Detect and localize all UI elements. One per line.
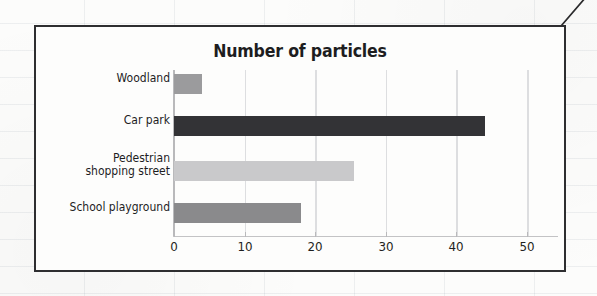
plot-area [174,70,527,236]
bar-pedestrian-shopping-street [174,161,354,181]
category-label-car-park: Car park [50,114,170,127]
xtick-label-10: 10 [226,239,264,254]
bar-school-playground [174,203,301,223]
chart-container: Number of particles Woodland Car park Pe… [34,25,566,272]
tickmark-10 [245,232,246,237]
tickmark-40 [456,232,457,237]
gridline-20 [315,70,317,236]
gridline-40 [456,70,458,236]
tickmark-30 [386,232,387,237]
xtick-label-30: 30 [367,239,405,254]
gridline-30 [386,70,388,236]
tickmark-20 [315,232,316,237]
category-axis-labels: Woodland Car park Pedestrian shopping st… [40,70,170,236]
tickmark-50 [527,232,528,237]
category-label-school-playground: School playground [50,201,170,214]
category-label-woodland: Woodland [50,72,170,85]
category-label-line: School playground [70,200,170,214]
gridline-50 [527,70,529,236]
tickmark-0 [174,232,175,237]
value-axis: 0 10 20 30 40 50 [174,237,527,261]
graph-paper-page: Number of particles Woodland Car park Pe… [0,0,597,296]
category-label-line: Car park [124,113,170,127]
category-label-line: shopping street [85,164,170,178]
xtick-label-20: 20 [296,239,334,254]
chart-title: Number of particles [54,41,545,61]
category-label-pedestrian-shopping-street: Pedestrian shopping street [50,152,170,177]
bar-woodland [174,74,202,94]
bar-car-park [174,116,485,136]
category-label-line: Woodland [117,71,170,85]
xtick-label-50: 50 [508,239,546,254]
xtick-label-0: 0 [155,239,193,254]
xtick-label-40: 40 [437,239,475,254]
